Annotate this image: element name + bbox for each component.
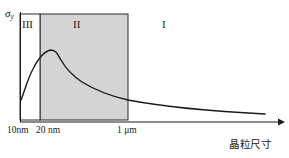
x-tick-label-10nm: 10nm (7, 126, 29, 136)
x-axis-label: 晶粒尺寸 (229, 139, 271, 150)
x-tick-label-1um: 1 μm (117, 126, 137, 136)
region-label-i: I (162, 19, 166, 30)
region-ii-shaded-box (40, 14, 128, 120)
yield-strength-grain-size-chart: σy III II I 10nm 20 nm 1 μm 晶粒尺寸 (0, 0, 289, 158)
region-label-iii: III (22, 19, 33, 30)
y-axis-subscript: y (10, 12, 13, 21)
x-tick-label-20nm: 20 nm (36, 126, 60, 136)
x-axis-arrow-icon (278, 119, 285, 126)
region-label-ii: II (73, 19, 80, 30)
y-axis-label: σy (5, 8, 14, 19)
